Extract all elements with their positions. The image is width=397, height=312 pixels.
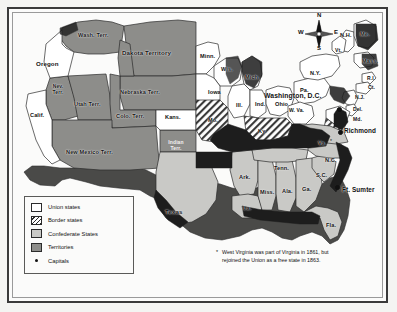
label-california: Calif. — [30, 112, 44, 118]
map-legend: Union states Border states Confederate S… — [24, 196, 134, 274]
legend-item-border: Border states — [31, 215, 128, 225]
label-indian-territory: Indian Terr. — [165, 140, 187, 152]
label-nevada-territory: Nev. Terr. — [48, 84, 68, 96]
legend-swatch-territories — [31, 243, 42, 252]
label-colorado-territory: Colo. Terr. — [116, 113, 144, 119]
marker-dot-fort-sumter — [335, 185, 340, 190]
footnote-text: West Virginia was part of Virginia in 18… — [222, 249, 329, 263]
label-dakota-territory: Dakota Territory — [122, 49, 171, 56]
legend-swatch-confederate — [31, 229, 42, 238]
label-florida: Fla. — [326, 222, 336, 228]
label-texas: Texas — [165, 208, 183, 215]
region-new-mexico-territory — [52, 120, 160, 170]
label-minnesota: Minn. — [200, 53, 215, 59]
footnote-marker: * — [216, 249, 218, 257]
legend-item-union: Union states — [31, 202, 128, 212]
label-washington-dc: Washington, D.C. — [264, 92, 322, 100]
virginia-footnote-marker: * — [330, 139, 332, 144]
label-west-virginia: W. Va. — [289, 108, 304, 114]
label-iowa: Iowa — [208, 89, 221, 95]
label-massachusetts: Mass. — [362, 58, 378, 64]
label-new-hampshire: N.H. — [340, 32, 352, 38]
legend-label-capitals: Capitals — [48, 258, 69, 264]
label-maine: Me. — [360, 31, 370, 37]
label-kansas: Kans. — [165, 114, 181, 120]
label-new-jersey: N.J. — [355, 95, 365, 101]
label-mississippi: Miss. — [260, 189, 275, 195]
label-indiana: Ind. — [255, 101, 265, 107]
legend-swatch-capitals — [31, 256, 42, 265]
legend-label-confederate: Confederate States — [48, 231, 98, 237]
legend-label-territories: Territories — [48, 244, 73, 250]
label-north-carolina: N.C. — [325, 157, 337, 163]
capital-dot-richmond — [338, 130, 343, 135]
label-utah-territory: Utah Terr. — [74, 101, 101, 107]
map-footnote: * West Virginia was part of Virginia in … — [222, 249, 334, 264]
label-vermont: Vt. — [335, 48, 342, 54]
label-delaware: Del. — [353, 107, 363, 113]
label-fort-sumter: Ft. Sumter — [342, 186, 375, 193]
label-georgia: Ga. — [302, 186, 311, 192]
label-tennessee: Tenn. — [274, 165, 289, 171]
label-ohio: Ohio — [275, 101, 288, 107]
label-connecticut: Ct. — [368, 85, 375, 91]
label-arkansas: Ark. — [239, 174, 250, 180]
label-virginia: Va. — [318, 140, 326, 146]
legend-label-border: Border states — [48, 217, 82, 223]
label-south-carolina: S.C. — [316, 172, 327, 178]
label-missouri: Mo. — [208, 117, 218, 123]
label-richmond: Richmond — [344, 127, 376, 134]
label-oregon: Oregon — [36, 60, 59, 67]
label-rhode-island: R.I. — [367, 76, 375, 82]
legend-label-union: Union states — [48, 204, 80, 210]
label-nebraska-territory: Nebraska Terr. — [120, 89, 160, 95]
label-alabama: Ala. — [282, 188, 293, 194]
region-illinois — [228, 84, 250, 118]
label-illinois: Ill. — [236, 102, 243, 108]
legend-swatch-union — [31, 203, 42, 212]
label-new-york: N.Y. — [310, 70, 321, 76]
indian-terr-shadow — [196, 152, 232, 168]
label-maryland: Md. — [353, 117, 362, 123]
region-dakota-territory — [124, 20, 196, 76]
label-wisconsin: Wis. — [221, 66, 233, 72]
legend-item-capitals: Capitals — [31, 256, 128, 266]
label-new-mexico-territory: New Mexico Terr. — [66, 149, 113, 155]
legend-item-confederate: Confederate States — [31, 229, 128, 239]
map-figure: N S W E Wash. Terr. Dakota Territory Neb… — [0, 0, 397, 312]
label-kentucky: Ky. — [258, 128, 267, 134]
legend-item-territories: Territories — [31, 242, 128, 252]
legend-swatch-border — [31, 216, 42, 225]
label-michigan: Mich. — [245, 74, 260, 80]
label-washington-territory: Wash. Terr. — [78, 32, 109, 38]
capital-dot-washington-dc — [337, 107, 342, 112]
label-louisiana: La. — [243, 205, 251, 211]
